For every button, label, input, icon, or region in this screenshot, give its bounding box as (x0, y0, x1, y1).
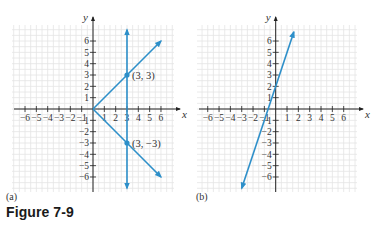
x-tick-label: 3 (307, 113, 312, 123)
x-tick-label: −6 (20, 113, 30, 123)
x-tick-label: 1 (285, 113, 290, 123)
y-tick-label: 3 (267, 70, 272, 80)
x-tick-label: −5 (214, 113, 224, 123)
panel-label: (b) (196, 191, 208, 203)
y-tick-label: −1 (79, 116, 89, 126)
x-tick-label: −4 (225, 113, 235, 123)
chart-panel-a: xy−6−5−4−3−2−1123456654321−1−2−3−4−5−6(3… (6, 11, 187, 203)
x-tick-label: 6 (159, 113, 164, 123)
x-tick-label: 5 (147, 113, 152, 123)
y-tick-label: −3 (79, 138, 89, 148)
point-label: (3, 3) (132, 70, 155, 82)
y-axis-label: y (265, 11, 271, 23)
y-tick-label: 2 (84, 82, 89, 92)
x-tick-label: −2 (248, 113, 258, 123)
figure-caption: Figure 7-9 (6, 204, 74, 220)
x-tick-label: −3 (54, 113, 64, 123)
y-tick-label: −6 (262, 172, 272, 182)
y-tick-label: −5 (79, 161, 89, 171)
y-tick-label: 6 (84, 36, 89, 46)
y-tick-label: 5 (84, 48, 89, 58)
y-tick-label: 1 (84, 93, 89, 103)
panel-label: (a) (6, 191, 17, 203)
y-tick-label: 5 (267, 48, 272, 58)
x-axis-label: x (364, 108, 370, 120)
y-tick-label: 6 (267, 36, 272, 46)
x-tick-label: −2 (65, 113, 75, 123)
y-tick-label: 2 (267, 82, 272, 92)
figure-canvas: xy−6−5−4−3−2−1123456654321−1−2−3−4−5−6(3… (0, 0, 379, 235)
data-point (124, 140, 129, 145)
x-tick-label: −3 (237, 113, 247, 123)
x-tick-label: −4 (43, 113, 53, 123)
y-tick-label: −3 (262, 138, 272, 148)
y-tick-label: −2 (262, 127, 272, 137)
y-axis-label: y (82, 11, 88, 23)
x-tick-label: 4 (136, 113, 141, 123)
x-tick-label: 2 (296, 113, 301, 123)
y-tick-label: −6 (79, 172, 89, 182)
x-axis-label: x (181, 108, 187, 120)
x-tick-label: 6 (341, 113, 346, 123)
y-tick-label: 3 (84, 70, 89, 80)
x-tick-label: −5 (31, 113, 41, 123)
y-tick-label: −5 (262, 161, 272, 171)
data-point (124, 72, 129, 77)
y-tick-label: −4 (79, 150, 89, 160)
x-tick-label: 4 (319, 113, 324, 123)
x-tick-label: 5 (330, 113, 335, 123)
x-tick-label: 2 (113, 113, 118, 123)
chart-panel-b: xy−6−5−4−3−2−1123456654321−1−2−3−4−5−6(b… (196, 11, 370, 203)
y-tick-label: −4 (262, 150, 272, 160)
y-tick-label: −2 (79, 127, 89, 137)
y-tick-label: 4 (267, 59, 272, 69)
point-label: (3, −3) (132, 138, 161, 150)
y-tick-label: 4 (84, 59, 89, 69)
x-tick-label: −6 (203, 113, 213, 123)
